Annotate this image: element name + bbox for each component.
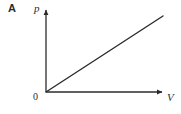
y-axis-label: p [34, 3, 40, 14]
x-axis-label: V [167, 92, 174, 103]
plot-area [0, 0, 181, 114]
panel-letter: A [8, 3, 16, 14]
data-line-proportional [46, 16, 163, 92]
origin-label: 0 [33, 92, 38, 102]
figure-panel: A p V 0 [0, 0, 181, 114]
